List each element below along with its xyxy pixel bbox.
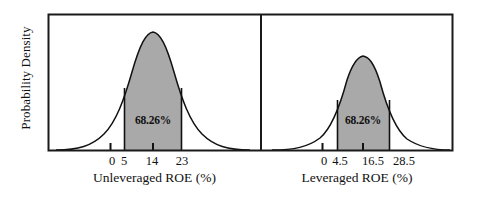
tick-label-leveraged-0: 0 (321, 154, 327, 169)
tick-label-leveraged-28-5: 28.5 (393, 154, 415, 169)
tick-label-leveraged-16-5: 16.5 (362, 154, 384, 169)
tick-label-leveraged-4-5: 4.5 (332, 154, 348, 169)
panel-leveraged (272, 56, 450, 150)
x-axis-label-leveraged: Leveraged ROE (%) (261, 170, 453, 186)
tick-label-unleveraged-0: 0 (109, 154, 115, 169)
tick-label-unleveraged-14: 14 (146, 154, 159, 169)
shaded-area-label-unleveraged: 68.26% (135, 114, 171, 126)
tick-label-unleveraged-5: 5 (121, 154, 127, 169)
plot-frame (49, 15, 453, 151)
shaded-area-leveraged (272, 56, 450, 150)
tick-label-unleveraged-23: 23 (176, 154, 189, 169)
shaded-area-unleveraged (56, 32, 250, 150)
panel-unleveraged (56, 32, 250, 150)
x-axis-label-unleveraged: Unleveraged ROE (%) (48, 170, 261, 186)
figure: Probability Density (0, 0, 478, 198)
shaded-area-label-leveraged: 68.26% (345, 114, 381, 126)
